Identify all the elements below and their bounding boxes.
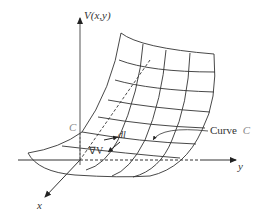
curve-point-label: C <box>69 121 77 133</box>
curve-callout: Curve C <box>210 124 251 136</box>
gradient-label: ∇V <box>88 145 104 156</box>
curve-callout-name: C <box>243 124 251 136</box>
surface-diagram: V(x,y) y x C dl ∇V Curve C <box>0 0 258 217</box>
dl-label: dl <box>118 129 126 140</box>
curve-callout-text: Curve <box>210 124 237 136</box>
dl-vector <box>104 137 118 140</box>
y-axis-label: y <box>237 160 243 172</box>
x-axis-label: x <box>36 199 42 211</box>
v-axis-label: V(x,y) <box>84 9 111 22</box>
gradient-vector <box>108 142 120 152</box>
surface-mesh <box>28 33 215 177</box>
